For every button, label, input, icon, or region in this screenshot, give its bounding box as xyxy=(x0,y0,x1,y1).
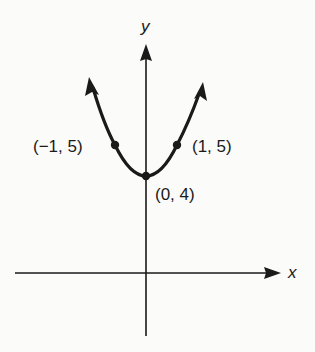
graph-canvas xyxy=(0,0,315,352)
point-right-marker xyxy=(173,141,181,149)
point-left-label: (−1, 5) xyxy=(33,137,83,157)
curve-left-arrow-icon xyxy=(85,77,99,96)
x-axis-arrow-icon xyxy=(264,267,281,279)
y-axis-arrow-icon xyxy=(140,44,152,61)
point-vertex-label: (0, 4) xyxy=(155,185,195,205)
point-vertex-marker xyxy=(142,172,150,180)
point-right-label: (1, 5) xyxy=(192,137,232,157)
x-axis-label: x xyxy=(288,263,297,283)
point-left-marker xyxy=(111,141,119,149)
y-axis-label: y xyxy=(141,17,150,37)
